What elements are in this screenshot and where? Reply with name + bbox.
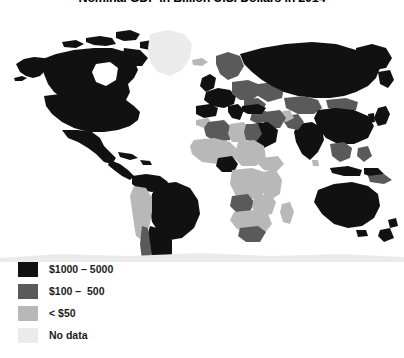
legend-label-no-data: No data — [49, 329, 88, 341]
legend-item-no-data: No data — [18, 324, 198, 346]
region-sri-lanka — [312, 160, 319, 166]
legend-label-100-500: $100 – 500 — [49, 285, 104, 297]
region-tasmania — [356, 230, 368, 237]
world-map-svg — [0, 12, 404, 262]
legend-swatch-no-data — [18, 328, 38, 343]
world-map — [0, 12, 404, 262]
legend-item-under-50: < $50 — [18, 302, 198, 324]
page-title: Nominal GDP in Billion U.S. Dollars in 2… — [0, 0, 404, 5]
legend-swatch-1000-5000 — [18, 262, 38, 277]
region-korea — [368, 113, 375, 123]
legend-swatch-under-50 — [18, 306, 38, 321]
map-legend: $1000 – 5000 $100 – 500 < $50 No data — [18, 258, 198, 346]
legend-item-100-500: $100 – 500 — [18, 280, 198, 302]
legend-item-1000-5000: $1000 – 5000 — [18, 258, 198, 280]
legend-label-under-50: < $50 — [49, 307, 76, 319]
legend-label-1000-5000: $1000 – 5000 — [49, 263, 113, 275]
legend-swatch-100-500 — [18, 284, 38, 299]
